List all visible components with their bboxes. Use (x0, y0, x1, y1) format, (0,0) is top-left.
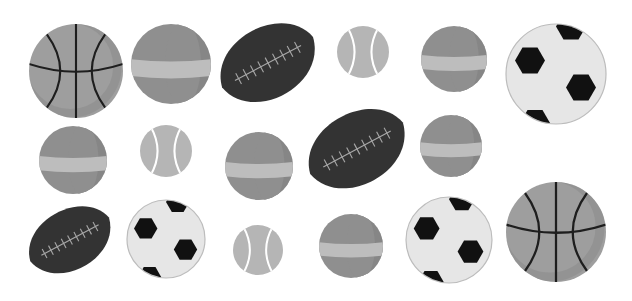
striped-ball-icon (39, 124, 110, 197)
soccer-ball-icon (406, 188, 492, 293)
striped-ball-icon (131, 22, 215, 108)
soccer-ball-icon (127, 192, 205, 288)
basketball-ball-icon (23, 19, 123, 118)
tennis-ball-icon (337, 26, 389, 78)
striped-ball-icon (319, 212, 386, 281)
football-ball-icon (16, 192, 124, 287)
sports-balls-illustration (0, 0, 632, 301)
striped-ball-icon (225, 130, 296, 203)
striped-ball-icon (421, 24, 490, 95)
tennis-ball-icon (233, 225, 283, 275)
soccer-ball-icon (506, 14, 606, 136)
tennis-ball-icon (140, 125, 192, 177)
balls-scene (0, 0, 632, 301)
football-ball-icon (293, 92, 420, 205)
football-ball-icon (205, 7, 330, 119)
striped-ball-icon (420, 113, 485, 180)
basketball-ball-icon (500, 177, 606, 282)
